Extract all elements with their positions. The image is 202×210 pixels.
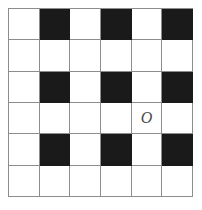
grid-cell-r6-c6[interactable] [162, 166, 193, 197]
grid-cell-r1-c1[interactable] [9, 9, 40, 40]
grid-cell-r3-c3[interactable] [70, 72, 101, 103]
checkerboard-grid: O [8, 8, 193, 197]
grid-cell-r2-c5[interactable] [132, 40, 163, 71]
grid-cell-r3-c1[interactable] [9, 72, 40, 103]
grid-cell-r5-c3[interactable] [70, 134, 101, 165]
grid-cell-r6-c1[interactable] [9, 166, 40, 197]
grid-cell-r5-c2[interactable] [40, 134, 71, 165]
grid-cell-r5-c1[interactable] [9, 134, 40, 165]
grid-cell-r1-c4[interactable] [101, 9, 132, 40]
grid-cell-r1-c3[interactable] [70, 9, 101, 40]
grid-cell-r3-c6[interactable] [162, 72, 193, 103]
grid-cell-r3-c5[interactable] [132, 72, 163, 103]
grid-cell-r2-c4[interactable] [101, 40, 132, 71]
grid-cell-r3-c4[interactable] [101, 72, 132, 103]
grid-cell-r6-c3[interactable] [70, 166, 101, 197]
grid-cell-r3-c2[interactable] [40, 72, 71, 103]
grid-cell-r4-c1[interactable] [9, 103, 40, 134]
grid-cell-r5-c4[interactable] [101, 134, 132, 165]
cell-mark-o: O [132, 103, 162, 133]
grid-cell-r5-c6[interactable] [162, 134, 193, 165]
grid-cell-r5-c5[interactable] [132, 134, 163, 165]
grid-cell-r4-c3[interactable] [70, 103, 101, 134]
grid-cell-r2-c6[interactable] [162, 40, 193, 71]
grid-cell-r1-c2[interactable] [40, 9, 71, 40]
grid-cell-r4-c2[interactable] [40, 103, 71, 134]
grid-cell-r6-c4[interactable] [101, 166, 132, 197]
grid-cell-r2-c1[interactable] [9, 40, 40, 71]
grid-cell-r6-c5[interactable] [132, 166, 163, 197]
grid-cell-r4-c6[interactable] [162, 103, 193, 134]
grid-cell-r1-c6[interactable] [162, 9, 193, 40]
grid-cell-r4-c4[interactable] [101, 103, 132, 134]
grid-cell-r2-c2[interactable] [40, 40, 71, 71]
grid-cell-r6-c2[interactable] [40, 166, 71, 197]
grid-cell-r2-c3[interactable] [70, 40, 101, 71]
grid-cell-r1-c5[interactable] [132, 9, 163, 40]
checkerboard-figure: O [0, 0, 202, 210]
grid-cell-r4-c5[interactable]: O [132, 103, 163, 134]
